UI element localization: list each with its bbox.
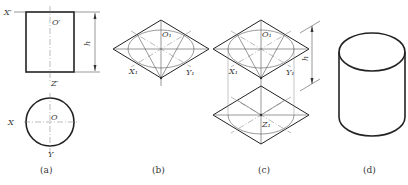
label-z-prime: Z′	[50, 79, 59, 88]
label-height: h	[83, 41, 92, 46]
label-x: X	[7, 118, 14, 127]
panel-c-two-ellipses: O₁ X₁ Y₁ Z₁ h (c)	[213, 20, 320, 175]
caption-c: (c)	[258, 165, 270, 175]
label-o1-c: O₁	[262, 30, 272, 39]
panel-d-cylinder: (d)	[339, 33, 405, 175]
caption-a: (a)	[40, 165, 52, 175]
label-x1-c: X₁	[228, 67, 238, 76]
label-y1-c: Y₁	[286, 68, 295, 77]
label-x-prime: X′	[3, 8, 12, 17]
label-height-c: h	[301, 56, 310, 61]
label-x1: X₁	[128, 67, 138, 76]
label-o-prime: O′	[52, 18, 61, 27]
cylinder-isometric-figure: X′ O′ Z′ h X O Y (a) O₁ X₁ Y₁ (b)	[0, 0, 408, 185]
panel-b-rhombus-construction: O₁ X₁ Y₁ (b)	[113, 20, 209, 175]
caption-d: (d)	[363, 165, 376, 175]
label-z1-c: Z₁	[261, 120, 271, 129]
caption-b: (b)	[152, 165, 165, 175]
panel-a-orthographic-views: X′ O′ Z′ h X O Y (a)	[3, 6, 100, 175]
cylinder-top-ellipse	[339, 33, 405, 71]
cylinder-bottom-arc	[339, 117, 405, 136]
label-o: O	[51, 113, 58, 122]
label-o1: O₁	[162, 30, 172, 39]
label-y1: Y₁	[186, 68, 195, 77]
label-y: Y	[48, 150, 54, 159]
